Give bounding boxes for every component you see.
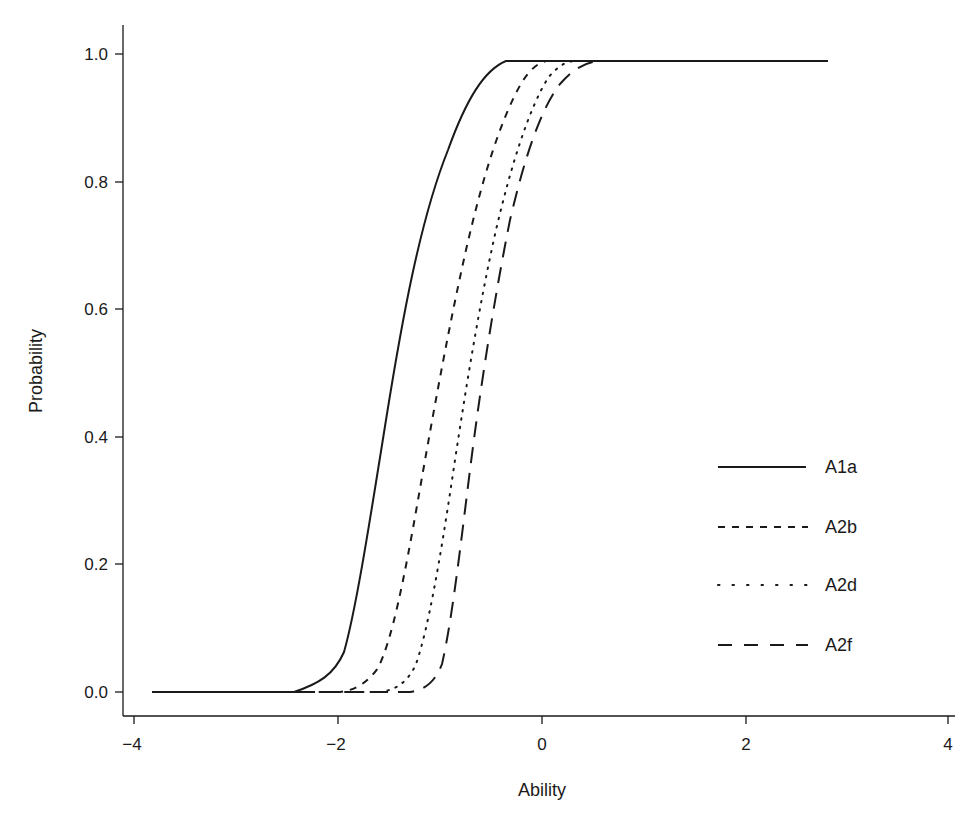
- legend-label: A2d: [825, 575, 857, 595]
- y-tick-label: 0.0: [84, 683, 108, 702]
- x-tick-label: −2: [326, 735, 345, 754]
- legend-label: A2b: [825, 517, 857, 537]
- curve-A2d: [294, 61, 828, 692]
- x-tick-labels: −4 −2 0 2 4: [122, 735, 952, 754]
- legend-label: A2f: [825, 635, 853, 655]
- x-tick-label: 4: [943, 735, 952, 754]
- x-tick-label: 2: [741, 735, 750, 754]
- chart: 0.0 0.2 0.4 0.6 0.8 1.0 −4 −2 0 2 4 Abil…: [0, 0, 977, 823]
- y-tick-label: 1.0: [84, 45, 108, 64]
- y-tick-label: 0.4: [84, 428, 108, 447]
- curve-A2f: [294, 61, 828, 692]
- y-tick-label: 0.2: [84, 555, 108, 574]
- axes: [115, 25, 955, 724]
- y-axis-title: Probability: [26, 329, 46, 413]
- x-tick-label: 0: [537, 735, 546, 754]
- legend: A1a A2b A2d A2f: [718, 457, 858, 655]
- curves: [152, 61, 828, 692]
- legend-item-A2d: A2d: [718, 575, 857, 595]
- legend-item-A1a: A1a: [718, 457, 858, 477]
- legend-label: A1a: [825, 457, 858, 477]
- curve-A2b: [294, 61, 828, 692]
- legend-item-A2b: A2b: [718, 517, 857, 537]
- y-tick-label: 0.8: [84, 173, 108, 192]
- y-tick-labels: 0.0 0.2 0.4 0.6 0.8 1.0: [84, 45, 108, 702]
- legend-item-A2f: A2f: [718, 635, 853, 655]
- curve-A1a: [152, 61, 828, 692]
- x-tick-label: −4: [122, 735, 141, 754]
- y-tick-label: 0.6: [84, 300, 108, 319]
- x-axis-title: Ability: [518, 780, 566, 800]
